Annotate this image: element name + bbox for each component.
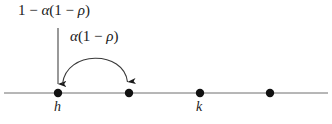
node-label-h: h: [54, 100, 61, 114]
node-dot[interactable]: [266, 89, 274, 97]
move-probability-arc-arrow: [63, 58, 128, 84]
move-label-part-close: ): [114, 28, 119, 44]
stay-label-part-rho: ρ: [78, 2, 85, 18]
node-dot[interactable]: [54, 89, 62, 97]
stay-label-part-open: (1 −: [49, 2, 77, 18]
move-label-part-open: (1 −: [78, 28, 106, 44]
move-probability-label: α(1 − ρ): [70, 29, 119, 44]
node-dot[interactable]: [196, 89, 204, 97]
figure-container: 1 − α(1 − ρ) α(1 − ρ) h k: [0, 0, 332, 124]
stay-label-part-one: 1: [18, 2, 26, 18]
node-dot[interactable]: [125, 89, 133, 97]
move-label-part-rho: ρ: [106, 28, 113, 44]
node-label-k: k: [196, 100, 202, 114]
diagram-canvas: [0, 0, 332, 124]
stay-probability-label: 1 − α(1 − ρ): [18, 3, 90, 18]
stay-label-part-minus: −: [26, 2, 42, 18]
stay-label-part-close: ): [85, 2, 90, 18]
move-label-part-alpha: α: [70, 28, 78, 44]
